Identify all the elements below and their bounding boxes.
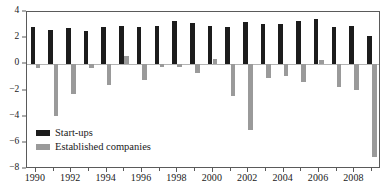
x-tick-mark-minor (88, 168, 89, 171)
bar-group (349, 12, 359, 167)
y-tick-label: −2 (9, 85, 19, 95)
bar-established (89, 64, 94, 67)
bar-startups (332, 27, 337, 64)
bar-group (296, 12, 306, 167)
bar-group (225, 12, 235, 167)
bar-established (177, 64, 182, 67)
bar-established (54, 64, 59, 116)
bar-group (332, 12, 342, 167)
bar-startups (208, 26, 213, 65)
bar-group (208, 12, 218, 167)
x-tick-mark-minor (123, 168, 124, 171)
x-tick-mark-minor (265, 168, 266, 171)
bar-group (190, 12, 200, 167)
chart-legend: Start-ups Established companies (36, 126, 186, 154)
bar-established (142, 64, 147, 80)
x-tick-label: 2000 (202, 173, 222, 183)
y-tick-label: 0 (14, 59, 19, 69)
y-tick-label: 2 (14, 32, 19, 42)
bar-startups (278, 24, 283, 64)
bar-startups (349, 26, 354, 64)
bar-startups (172, 21, 177, 64)
bar-startups (84, 31, 89, 64)
bar-established (337, 64, 342, 87)
x-axis: 1990199219941996199820002002200420062008 (26, 168, 380, 189)
x-tick-label: 1998 (166, 173, 186, 183)
x-tick-label: 2004 (272, 173, 292, 183)
bar-startups (101, 27, 106, 64)
bar-established (231, 64, 236, 95)
y-tick-label: 4 (14, 6, 19, 16)
bar-startups (314, 19, 319, 64)
bar-startups (48, 30, 53, 64)
bar-startups (225, 27, 230, 64)
legend-swatch-startups-icon (36, 130, 50, 136)
bar-established (36, 64, 41, 68)
bar-established (71, 64, 76, 94)
bar-group (278, 12, 288, 167)
y-tick-label: −4 (9, 111, 19, 121)
bar-group (261, 12, 271, 167)
bar-startups (137, 27, 142, 64)
x-tick-mark-minor (159, 168, 160, 171)
x-tick-mark-minor (230, 168, 231, 171)
x-tick-mark-minor (300, 168, 301, 171)
bar-established (124, 56, 129, 64)
x-tick-label: 1994 (95, 173, 115, 183)
bar-chart: 420−2−4−6−8 1990199219941996199820002002… (0, 0, 384, 189)
x-tick-label: 2002 (237, 173, 257, 183)
bar-established (266, 64, 271, 78)
bar-established (213, 59, 218, 64)
legend-item-established: Established companies (36, 140, 186, 154)
bar-established (107, 64, 112, 85)
bar-startups (190, 23, 195, 64)
x-tick-mark-minor (371, 168, 372, 171)
bar-startups (296, 21, 301, 64)
y-tick-label: −6 (9, 137, 19, 147)
bar-startups (367, 36, 372, 65)
y-tick-label: −8 (9, 163, 19, 173)
bar-startups (155, 26, 160, 65)
x-tick-label: 2006 (308, 173, 328, 183)
legend-label-established: Established companies (55, 142, 151, 153)
legend-label-startups: Start-ups (55, 128, 93, 139)
bar-startups (66, 28, 71, 64)
bar-established (354, 64, 359, 90)
bar-established (195, 64, 200, 73)
bar-group (243, 12, 253, 167)
bar-startups (243, 22, 248, 65)
x-tick-label: 2008 (343, 173, 363, 183)
bar-established (248, 64, 253, 129)
bar-established (284, 64, 289, 76)
bar-startups (119, 26, 124, 64)
legend-item-startups: Start-ups (36, 126, 186, 140)
x-tick-mark-minor (194, 168, 195, 171)
bar-established (372, 64, 377, 156)
bar-startups (261, 24, 266, 64)
bar-established (319, 60, 324, 64)
x-tick-mark-minor (53, 168, 54, 171)
bar-group (314, 12, 324, 167)
legend-swatch-established-icon (36, 144, 50, 150)
bar-established (160, 64, 165, 67)
bar-startups (31, 27, 36, 64)
x-tick-label: 1996 (131, 173, 151, 183)
bar-group (367, 12, 377, 167)
x-tick-label: 1990 (25, 173, 45, 183)
x-tick-mark-minor (336, 168, 337, 171)
bar-established (301, 64, 306, 82)
x-tick-label: 1992 (60, 173, 80, 183)
y-axis: 420−2−4−6−8 (0, 0, 26, 189)
